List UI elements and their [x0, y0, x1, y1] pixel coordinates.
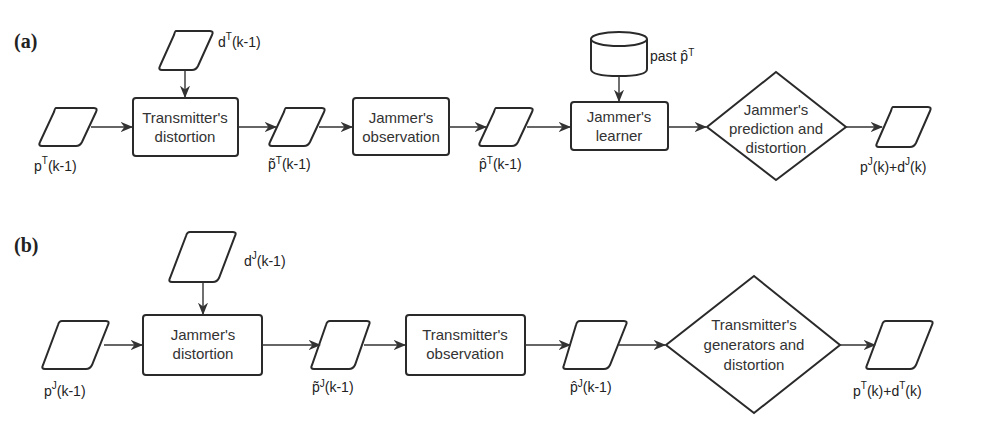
data-node-input-distortion	[159, 31, 212, 70]
svg-text:Jammer's: Jammer's	[587, 108, 652, 125]
panel-a: (a) pT(k-1) dT(k-1) Transmitter's distor…	[14, 30, 931, 180]
svg-text:generators and: generators and	[704, 336, 805, 353]
svg-text:Transmitter's: Transmitter's	[142, 109, 228, 126]
panel-b: (b) pJ(k-1) dJ(k-1) Jammer's distortion …	[14, 232, 933, 413]
svg-text:Jammer's: Jammer's	[369, 109, 434, 126]
data-node-output	[866, 321, 932, 369]
svg-text:distortion: distortion	[746, 139, 807, 156]
process-node-jammer-learner: Jammer's learner	[571, 102, 668, 150]
data-node-observed-param	[479, 108, 532, 146]
data-node-distorted-param	[269, 108, 324, 146]
data-node-distorted-param	[311, 321, 369, 369]
svg-text:observation: observation	[426, 345, 504, 362]
svg-text:observation: observation	[362, 128, 440, 145]
svg-text:prediction and: prediction and	[729, 120, 823, 137]
data-node-input-param	[39, 108, 96, 146]
svg-text:Transmitter's: Transmitter's	[711, 316, 797, 333]
decision-node-jammer-prediction: Jammer's prediction and distortion	[707, 72, 846, 180]
process-node-transmitter-observation: Transmitter's observation	[406, 315, 525, 375]
svg-text:learner: learner	[596, 127, 643, 144]
observed-param-label: p̂J(k-1)	[570, 378, 612, 395]
data-node-input-distortion	[169, 232, 235, 282]
database-icon-past-observations	[591, 32, 647, 76]
svg-text:Transmitter's: Transmitter's	[422, 326, 508, 343]
data-node-output	[876, 107, 930, 147]
panel-a-tag: (a)	[14, 30, 37, 53]
process-node-transmitter-distortion: Transmitter's distortion	[133, 98, 238, 156]
input-param-label: pJ(k-1)	[44, 380, 86, 399]
decision-node-transmitter-generators: Transmitter's generators and distortion	[666, 276, 840, 413]
database-label: past p̂T	[650, 47, 694, 64]
process-node-jammer-observation: Jammer's observation	[353, 98, 449, 155]
input-distortion-label: dJ(k-1)	[244, 250, 286, 269]
flowchart-figure: (a) pT(k-1) dT(k-1) Transmitter's distor…	[0, 0, 981, 433]
input-param-label: pT(k-1)	[34, 155, 77, 174]
output-label: pT(k)+dT(k)	[853, 380, 922, 399]
output-label: pJ(k)+dJ(k)	[860, 156, 926, 175]
svg-text:Jammer's: Jammer's	[171, 326, 236, 343]
svg-text:Jammer's: Jammer's	[744, 101, 809, 118]
distorted-param-label: p̃J(k-1)	[312, 378, 354, 395]
panel-b-tag: (b)	[14, 234, 38, 257]
input-distortion-label: dT(k-1)	[218, 31, 261, 50]
distorted-param-label: p̃T(k-1)	[268, 155, 311, 172]
svg-text:distortion: distortion	[155, 128, 216, 145]
data-node-input-param	[42, 321, 108, 369]
observed-param-label: p̂T(k-1)	[479, 155, 522, 172]
svg-text:distortion: distortion	[173, 345, 234, 362]
data-node-observed-param	[563, 321, 626, 369]
process-node-jammer-distortion: Jammer's distortion	[143, 315, 262, 375]
svg-text:distortion: distortion	[724, 356, 785, 373]
